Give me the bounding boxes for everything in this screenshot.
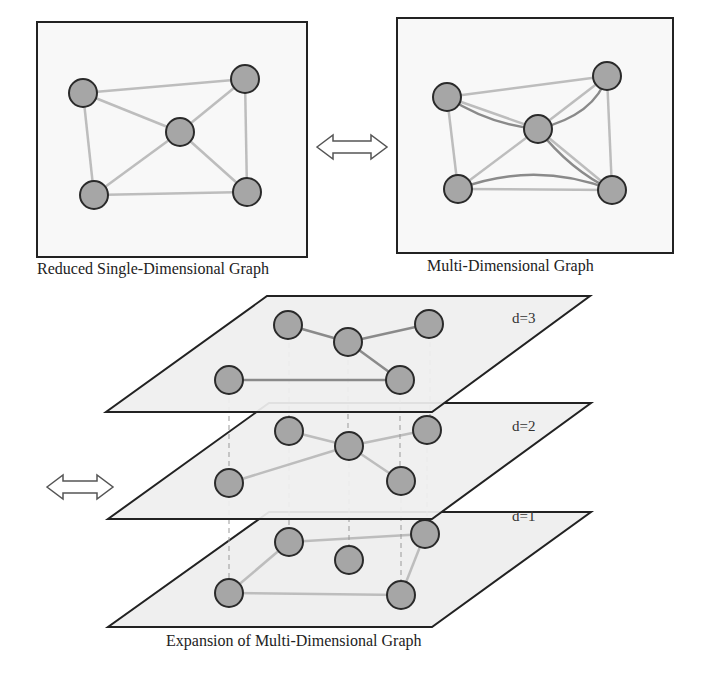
double-arrow-icon xyxy=(47,475,113,499)
graph-node xyxy=(387,581,415,609)
graph-node xyxy=(433,83,461,111)
graph-node xyxy=(524,115,552,143)
caption-expansion: Expansion of Multi-Dimensional Graph xyxy=(166,632,422,650)
graph-node xyxy=(335,546,363,574)
graph-node xyxy=(231,65,259,93)
caption-single-dimensional: Reduced Single-Dimensional Graph xyxy=(37,260,269,278)
single-dimensional-graph-panel xyxy=(37,22,307,257)
graph-node xyxy=(387,467,415,495)
graph-node xyxy=(166,118,194,146)
graph-node xyxy=(80,181,108,209)
graph-node xyxy=(411,520,439,548)
graph-node xyxy=(598,176,626,204)
graph-node xyxy=(334,328,362,356)
graph-node xyxy=(335,432,363,460)
double-arrow-icon xyxy=(317,135,387,159)
multi-dimensional-graph-panel xyxy=(397,18,673,253)
graph-node xyxy=(444,175,472,203)
graph-node xyxy=(215,579,243,607)
layer-label-d3: d=3 xyxy=(512,310,535,327)
graph-node xyxy=(274,311,302,339)
graph-node xyxy=(386,366,414,394)
layer-label-d2: d=2 xyxy=(512,418,535,435)
graph-node xyxy=(215,469,243,497)
graph-node xyxy=(593,62,621,90)
graph-node xyxy=(415,310,443,338)
diagram-canvas xyxy=(0,0,707,681)
graph-node xyxy=(233,178,261,206)
layer-label-d1: d=1 xyxy=(512,508,535,525)
graph-node xyxy=(413,416,441,444)
graph-node xyxy=(275,417,303,445)
graph-node xyxy=(275,528,303,556)
caption-multi-dimensional: Multi-Dimensional Graph xyxy=(427,257,594,275)
graph-node xyxy=(69,79,97,107)
graph-node xyxy=(215,366,243,394)
